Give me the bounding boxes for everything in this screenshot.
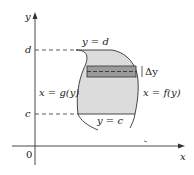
x-axis-arrow-icon	[178, 144, 185, 149]
y-axis-arrow-icon	[33, 12, 38, 19]
shaded-region	[76, 50, 138, 114]
stray-mark	[144, 141, 147, 142]
level-d-label: d	[25, 44, 31, 55]
region-diagram: y x 0 d c y = d y = c x = g(y) x = f(y) …	[0, 0, 194, 175]
left-curve-label: x = g(y)	[39, 87, 79, 98]
y-axis-label: y	[24, 11, 31, 22]
right-curve-label: x = f(y)	[143, 87, 181, 98]
top-boundary-label: y = d	[81, 36, 109, 47]
delta-y-label: Δy	[145, 66, 158, 77]
origin-label: 0	[26, 149, 32, 160]
x-axis-label: x	[180, 151, 186, 162]
bottom-boundary-label: y = c	[96, 115, 123, 126]
level-c-label: c	[25, 108, 31, 119]
